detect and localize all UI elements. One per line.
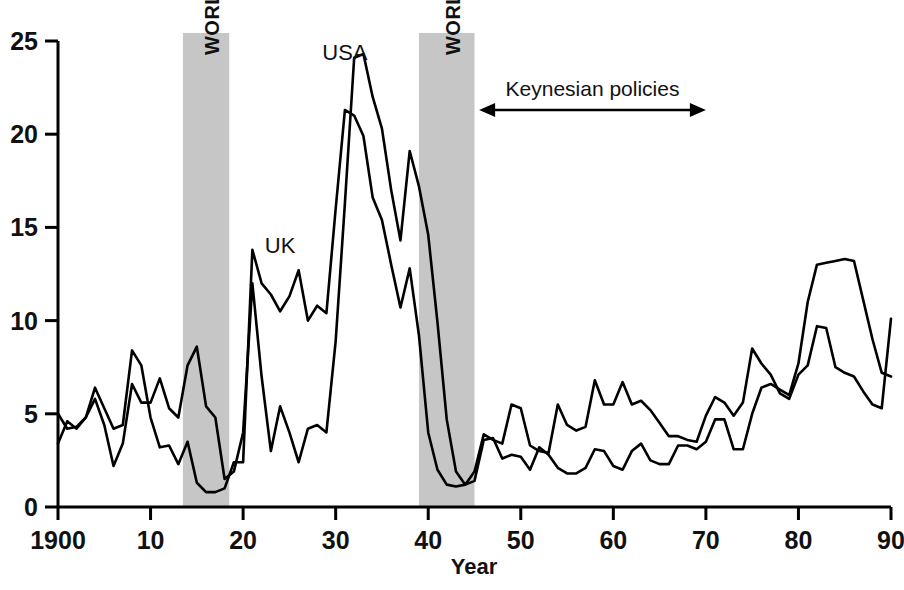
y-tick-label-20: 20 [10, 120, 38, 148]
band-label-world-war-two: WORLD WAR TWO [442, 0, 464, 55]
shaded-band-world-war-one [183, 33, 229, 507]
band-label-world-war-one: WORLD WAR ONE [201, 0, 223, 55]
x-tick-label-70: 70 [692, 526, 720, 554]
x-tick-label-40: 40 [414, 526, 442, 554]
y-tick-label-25: 25 [10, 27, 38, 55]
y-tick-label-15: 15 [10, 213, 38, 241]
keynesian-policies-annotation: Keynesian policies [506, 77, 680, 100]
unemployment-chart: WORLD WAR ONEWORLD WAR TWO 1900102030405… [0, 0, 904, 590]
x-tick-label-50: 50 [507, 526, 535, 554]
x-tick-label-20: 20 [229, 526, 257, 554]
uk-series-label: UK [265, 233, 296, 258]
y-tick-label-5: 5 [24, 400, 38, 428]
y-tick-label-10: 10 [10, 307, 38, 335]
chart-canvas: WORLD WAR ONEWORLD WAR TWO 1900102030405… [0, 0, 904, 590]
x-tick-label-80: 80 [785, 526, 813, 554]
shaded-band-world-war-two [419, 33, 475, 507]
x-axis-title: Year [451, 554, 498, 579]
usa-series-label: USA [322, 40, 368, 65]
x-tick-label-60: 60 [599, 526, 627, 554]
x-tick-label-10: 10 [137, 526, 165, 554]
x-tick-label-1900: 1900 [30, 526, 86, 554]
y-tick-label-0: 0 [24, 493, 38, 521]
x-tick-label-30: 30 [322, 526, 350, 554]
x-tick-label-90: 90 [877, 526, 904, 554]
